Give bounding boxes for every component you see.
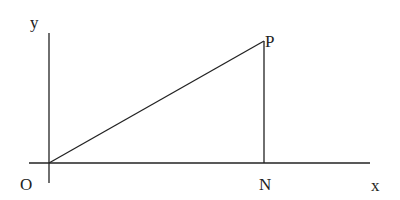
coordinate-diagram: y x O P N xyxy=(0,0,400,200)
x-axis-label: x xyxy=(371,176,380,195)
diagram-svg: y x O P N xyxy=(0,0,400,200)
point-p-label: P xyxy=(265,32,274,51)
y-axis-label: y xyxy=(30,13,39,32)
point-n-label: N xyxy=(259,175,271,194)
segment-op xyxy=(49,41,264,163)
origin-label: O xyxy=(20,175,32,194)
